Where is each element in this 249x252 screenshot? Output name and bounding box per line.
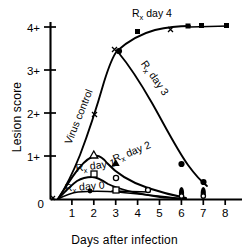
chart-plot-area: 4+ 3+ 2+ 1+ 0 1 2 3 4 5 6 7 8: [0, 0, 249, 252]
y-tick-label-2: 2+: [27, 108, 40, 120]
label-virus-control: Virus control: [62, 87, 95, 145]
x-tick-label-8: 8: [222, 207, 228, 219]
marker-circle-day7: [200, 179, 206, 185]
x-tick-label-4: 4: [134, 207, 141, 219]
curve-rx-day-4: [117, 26, 190, 51]
y-tick-labels: 4+ 3+ 2+ 1+ 0: [27, 22, 44, 211]
x-tick-label-1: 1: [69, 207, 75, 219]
label-virus-control-text: Virus control: [62, 87, 95, 145]
marker-virus-control-group: [51, 27, 173, 200]
label-rx-day-3: Rx day 3: [137, 58, 172, 99]
marker-circle-open-day3: [113, 175, 118, 180]
marker-cluster-day7-open: [201, 194, 205, 198]
x-tick-label-3: 3: [112, 207, 118, 219]
svg-text:Rx day 2: Rx day 2: [111, 138, 154, 166]
curve-rx-day-4-plateau: [190, 26, 228, 27]
marker-triangle-open-day2: [90, 151, 98, 158]
x-tick-label-2: 2: [91, 207, 97, 219]
svg-text:Rx day 4: Rx day 4: [132, 7, 172, 22]
marker-cluster-group: [179, 187, 206, 199]
marker-square-day7: [224, 23, 229, 28]
marker-square-day6b: [199, 23, 204, 28]
y-tick-label-4: 4+: [27, 22, 40, 34]
label-rx-day-2-suffix: day 2: [121, 138, 152, 160]
x-tick-labels: 1 2 3 4 5 6 7 8: [69, 207, 229, 219]
marker-circle-open-day4: [146, 188, 151, 193]
marker-rx-day-3-group: [178, 161, 206, 185]
figure-lesion-score-chart: 4+ 3+ 2+ 1+ 0 1 2 3 4 5 6 7 8: [0, 0, 249, 252]
marker-square-open-day2: [91, 171, 97, 177]
y-tick-label-3: 3+: [27, 65, 40, 77]
marker-circle-day6: [178, 161, 184, 167]
marker-cluster-day6-open: [179, 194, 183, 198]
label-rx-day-0-suffix: day 0: [76, 179, 106, 193]
curve-rx-day-3: [118, 52, 207, 186]
marker-square-day6a: [186, 24, 191, 29]
x-tick-label-5: 5: [156, 207, 162, 219]
marker-square-day4: [135, 29, 140, 34]
label-rx-day-3-suffix: day 3: [145, 67, 171, 97]
marker-square-open-day3: [113, 187, 119, 193]
label-rx-day-4-suffix: day 4: [143, 7, 172, 19]
x-axis-title: Days after infection: [0, 233, 249, 247]
y-tick-label-0: 0: [38, 198, 44, 210]
svg-text:Rx day 3: Rx day 3: [137, 58, 172, 99]
label-rx-day-1-suffix: day 1: [86, 156, 116, 172]
y-tick-label-1: 1+: [27, 151, 40, 163]
label-rx-day-2: Rx day 2: [111, 138, 154, 166]
y-axis-title: Lesion score: [10, 67, 24, 167]
marker-peak-dot: [116, 48, 122, 54]
label-rx-day-4: Rx day 4: [132, 7, 172, 22]
x-tick-label-7: 7: [200, 207, 206, 219]
x-tick-label-6: 6: [178, 207, 184, 219]
